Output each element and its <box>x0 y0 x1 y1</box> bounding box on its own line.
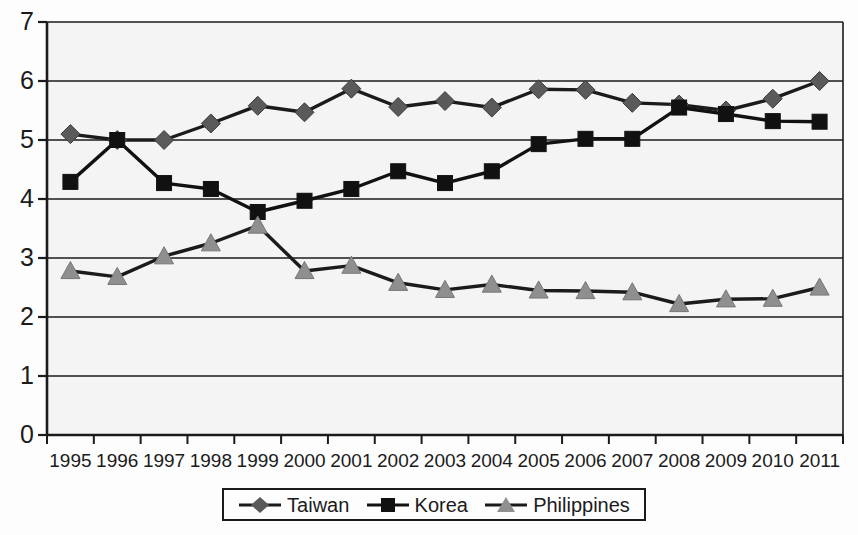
data-point-marker <box>718 107 733 122</box>
legend-item-taiwan: Taiwan <box>238 495 349 515</box>
data-point-marker <box>344 181 359 196</box>
y-tick-label: 0 <box>0 422 34 447</box>
data-point-marker <box>157 176 172 191</box>
y-tick-label: 6 <box>0 68 34 93</box>
data-point-marker <box>625 131 640 146</box>
x-tick-label: 2006 <box>562 451 608 470</box>
data-point-marker <box>203 181 218 196</box>
x-tick-label: 2010 <box>750 451 796 470</box>
data-point-marker <box>765 114 780 129</box>
data-point-marker <box>484 164 499 179</box>
x-tick-label: 2002 <box>375 451 421 470</box>
data-point-marker <box>297 193 312 208</box>
legend-label: Korea <box>415 495 468 515</box>
y-tick-label: 3 <box>0 245 34 270</box>
x-tick-label: 2011 <box>797 451 843 470</box>
data-point-marker <box>531 137 546 152</box>
x-tick-label: 2000 <box>282 451 328 470</box>
x-tick-label: 1999 <box>235 451 281 470</box>
x-tick-label: 2007 <box>609 451 655 470</box>
chart-legend: TaiwanKoreaPhilippines <box>222 488 646 521</box>
y-tick-label: 5 <box>0 127 34 152</box>
legend-item-philippines: Philippines <box>484 495 630 515</box>
x-tick-label: 1998 <box>188 451 234 470</box>
plot-background <box>47 22 843 435</box>
data-point-marker <box>63 174 78 189</box>
x-tick-label: 1997 <box>141 451 187 470</box>
line-chart: 01234567 1995199619971998199920002001200… <box>0 0 858 535</box>
data-point-marker <box>812 114 827 129</box>
legend-marker-triangle-icon <box>484 496 528 514</box>
data-point-marker <box>391 164 406 179</box>
x-tick-label: 1996 <box>94 451 140 470</box>
y-tick-label: 7 <box>0 9 34 34</box>
x-tick-label: 2005 <box>516 451 562 470</box>
x-tick-label: 2009 <box>703 451 749 470</box>
legend-marker-square-icon <box>366 496 410 514</box>
data-point-marker <box>672 100 687 115</box>
y-tick-label: 2 <box>0 304 34 329</box>
x-tick-label: 2003 <box>422 451 468 470</box>
x-tick-label: 2004 <box>469 451 515 470</box>
x-tick-label: 1995 <box>47 451 93 470</box>
y-tick-label: 1 <box>0 363 34 388</box>
x-tick-label: 2008 <box>656 451 702 470</box>
legend-item-korea: Korea <box>366 495 468 515</box>
data-point-marker <box>438 176 453 191</box>
x-tick-label: 2001 <box>328 451 374 470</box>
y-tick-label: 4 <box>0 186 34 211</box>
legend-marker-diamond-icon <box>238 496 282 514</box>
legend-label: Philippines <box>533 495 630 515</box>
data-point-marker <box>578 131 593 146</box>
data-point-marker <box>110 133 125 148</box>
legend-label: Taiwan <box>287 495 349 515</box>
